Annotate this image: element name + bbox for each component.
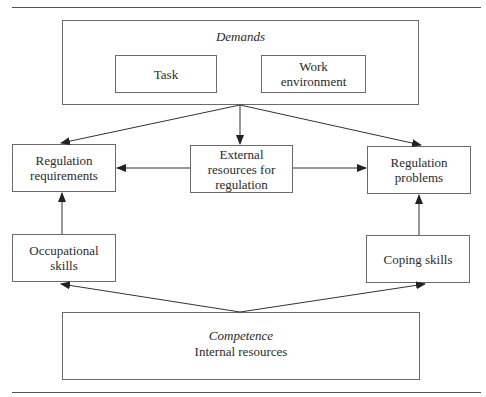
arrow-connectors (0, 0, 486, 397)
arrow-competence-to-coping-skills (240, 284, 425, 312)
arrow-demands-to-regulation-requirements (61, 105, 240, 143)
arrow-competence-to-occupational-skills (61, 284, 240, 312)
arrow-demands-to-regulation-problems (240, 105, 421, 145)
